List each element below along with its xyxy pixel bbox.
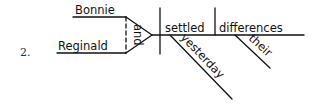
subject-reginald: Reginald <box>58 39 108 53</box>
object-differences: differences <box>219 21 283 35</box>
problem-number: 2. <box>20 46 31 59</box>
subject-bonnie: Bonnie <box>75 3 115 17</box>
conjunction-and: and <box>131 24 145 46</box>
modifier-yesterday: yesterday <box>178 30 228 81</box>
sentence-diagram: 2. Bonnie Reginald and settled differenc… <box>0 0 312 110</box>
